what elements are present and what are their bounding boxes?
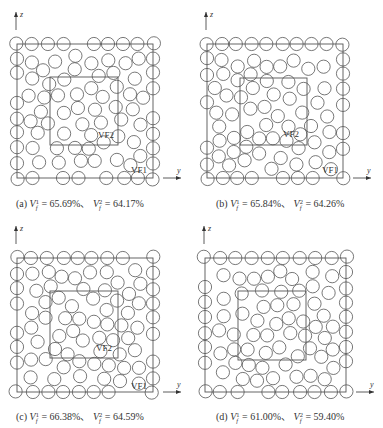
y-axis-label: y — [176, 380, 181, 389]
fiber-circle — [127, 136, 140, 149]
fiber-circle — [231, 74, 244, 87]
fiber-circle — [274, 60, 287, 73]
z-arrowhead-icon — [14, 226, 18, 231]
fiber-circle — [214, 347, 227, 360]
fiber-circle — [317, 60, 330, 73]
fiber-circle — [68, 141, 81, 154]
fiber-circle — [290, 370, 303, 383]
fiber-circle — [260, 74, 273, 87]
fiber-circle — [233, 272, 246, 285]
caption-d: (d) V1f = 61.00%、 V2f = 59.40% — [216, 408, 344, 424]
fiber-circle — [340, 250, 353, 263]
fiber-circle — [208, 81, 221, 94]
vf1-boundary — [207, 44, 343, 178]
fiber-circle — [87, 315, 100, 328]
fiber-circle — [266, 132, 279, 145]
fiber-circle — [98, 284, 111, 297]
fiber-circle — [61, 348, 74, 361]
fiber-circle — [287, 298, 300, 311]
fiber-circle — [241, 343, 254, 356]
fiber-circle — [49, 55, 62, 68]
fiber-circle — [286, 272, 299, 285]
fiber-circle — [322, 286, 335, 299]
caption-b: (b) V1f = 65.84%、 V2f = 64.26% — [216, 195, 344, 211]
fiber-circle — [326, 270, 339, 283]
fiber-circle — [110, 153, 123, 166]
fiber-circle — [73, 355, 86, 368]
fiber-circle — [303, 342, 316, 355]
fiber-circle — [306, 280, 319, 293]
fiber-circle — [94, 116, 107, 129]
fiber-circle — [227, 131, 240, 144]
fiber-circle — [77, 282, 90, 295]
fiber-circle — [284, 327, 297, 340]
fiber-circle — [122, 332, 135, 345]
fiber-circle — [100, 303, 113, 316]
fiber-circle — [87, 292, 100, 305]
fiber-circle — [128, 344, 141, 357]
fiber-circle — [253, 132, 266, 145]
fiber-circle — [31, 335, 44, 348]
fiber-circle — [92, 69, 105, 82]
fiber-circle — [311, 96, 324, 109]
fiber-circle — [57, 106, 70, 119]
fiber-circle — [248, 54, 261, 67]
fiber-circle — [59, 312, 72, 325]
fiber-circle — [38, 91, 51, 104]
fiber-circle — [253, 147, 266, 160]
fiber-circle — [100, 266, 113, 279]
fiber-circle — [226, 108, 239, 121]
fiber-circle — [102, 359, 115, 372]
vf2-value: 64.26% — [314, 198, 345, 209]
vf2-label: VF2 — [98, 130, 114, 140]
fiber-circle — [34, 105, 47, 118]
fiber-circle — [271, 299, 284, 312]
fiber-circle — [257, 300, 270, 313]
fiber-circle — [96, 90, 109, 103]
fiber-circle — [88, 357, 101, 370]
fiber-circle — [223, 159, 236, 172]
fiber-circle — [52, 156, 65, 169]
fiber-circle — [111, 294, 124, 307]
fiber-circle — [238, 154, 251, 167]
fiber-circle — [129, 264, 142, 277]
fiber-circle — [315, 350, 328, 363]
fiber-circle — [22, 89, 35, 102]
fiber-circle — [256, 361, 269, 374]
vf2-value: 64.17% — [113, 198, 144, 209]
fiber-circle — [132, 361, 145, 374]
vf2-label: VF2 — [283, 129, 299, 139]
fiber-circle — [9, 385, 22, 398]
fiber-circle — [68, 63, 81, 76]
vf1-value: 65.84% — [250, 198, 281, 209]
fiber-circle — [25, 321, 38, 334]
fiber-circle — [308, 136, 321, 149]
fiber-circle — [229, 356, 242, 369]
fiber-circle — [131, 321, 144, 334]
fiber-circle — [217, 269, 230, 282]
fiber-circle — [261, 270, 274, 283]
fiber-circle — [244, 102, 257, 115]
separator: 、 — [80, 198, 90, 209]
z-arrowhead-icon — [204, 12, 208, 17]
y-arrowhead-icon — [366, 176, 371, 180]
fiber-circle — [258, 100, 271, 113]
panel-a: VF2VF1zy — [10, 10, 181, 186]
fiber-circle — [246, 81, 259, 94]
fiber-circle — [57, 361, 70, 374]
fiber-circle — [25, 307, 38, 320]
fiber-circle — [98, 372, 111, 385]
z-arrowhead-icon — [202, 226, 206, 231]
fiber-circle — [52, 291, 65, 304]
panel-b: VF2VF1zy — [200, 10, 371, 186]
fiber-circle — [287, 54, 300, 67]
fiber-circle — [273, 341, 286, 354]
fiber-circle — [134, 277, 147, 290]
fiber-circle — [31, 126, 44, 139]
fiber-circle — [146, 173, 159, 186]
fiber-circle — [25, 56, 38, 69]
fiber-circle — [326, 320, 339, 333]
fiber-circle — [53, 329, 66, 342]
fiber-circle — [236, 372, 249, 385]
vf2-value: 64.59% — [113, 411, 144, 422]
